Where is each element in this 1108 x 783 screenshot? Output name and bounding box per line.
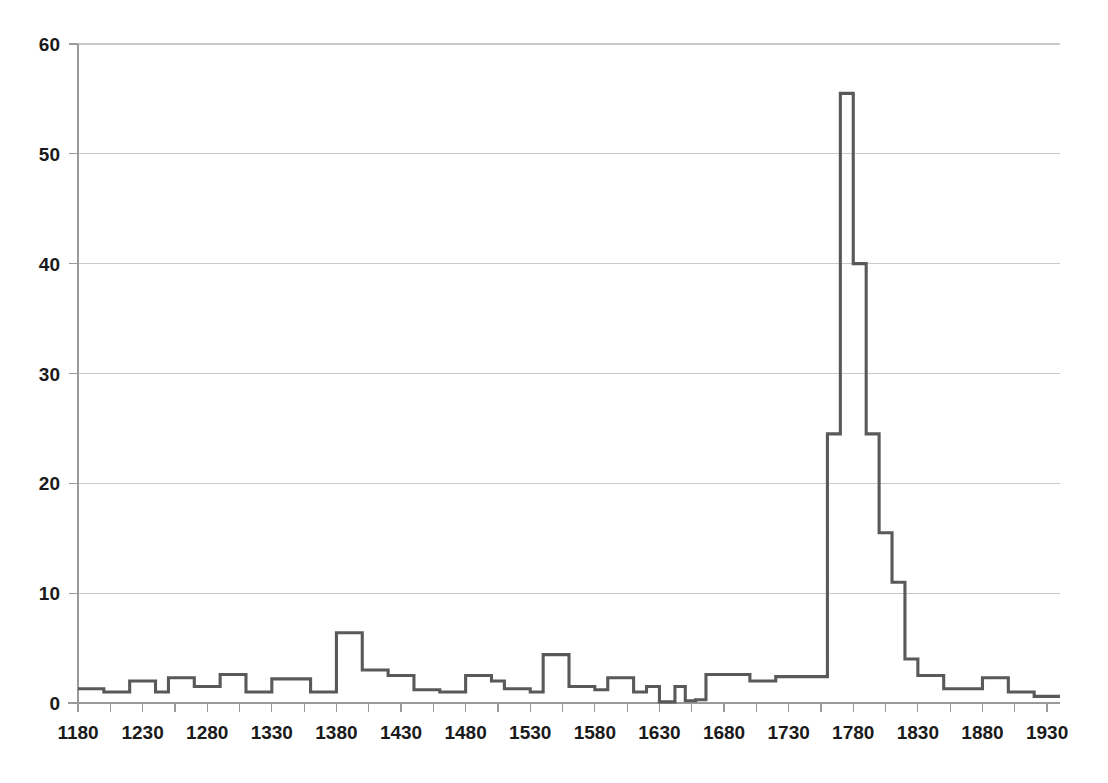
y-tick-label-20: 20 bbox=[39, 473, 60, 494]
x-tick-label-1580: 1580 bbox=[574, 722, 616, 743]
y-tick-label-30: 30 bbox=[39, 364, 60, 385]
x-tick-label-1530: 1530 bbox=[509, 722, 551, 743]
x-tick-label-1630: 1630 bbox=[638, 722, 680, 743]
step-line-chart: 0102030405060 11801230128013301380143014… bbox=[0, 0, 1108, 783]
data-series bbox=[78, 93, 1060, 701]
x-tick-label-1280: 1280 bbox=[186, 722, 228, 743]
x-tick-label-1780: 1780 bbox=[832, 722, 874, 743]
y-tick-label-40: 40 bbox=[39, 254, 60, 275]
y-tick-label-50: 50 bbox=[39, 144, 60, 165]
x-tick-label-1230: 1230 bbox=[121, 722, 163, 743]
x-tick-label-1880: 1880 bbox=[961, 722, 1003, 743]
x-tick-label-1480: 1480 bbox=[444, 722, 486, 743]
x-tick-label-1380: 1380 bbox=[315, 722, 357, 743]
x-axis-tick-labels: 1180123012801330138014301480153015801630… bbox=[57, 722, 1068, 743]
y-tick-label-10: 10 bbox=[39, 583, 60, 604]
series-line-0 bbox=[78, 93, 1060, 701]
gridlines bbox=[78, 44, 1060, 593]
x-tick-label-1430: 1430 bbox=[380, 722, 422, 743]
x-tick-label-1180: 1180 bbox=[57, 722, 98, 743]
x-tick-label-1930: 1930 bbox=[1026, 722, 1068, 743]
x-tick-label-1830: 1830 bbox=[897, 722, 939, 743]
y-tick-label-60: 60 bbox=[39, 34, 60, 55]
x-tick-label-1680: 1680 bbox=[703, 722, 745, 743]
chart-container: 0102030405060 11801230128013301380143014… bbox=[0, 0, 1108, 783]
y-tick-label-0: 0 bbox=[49, 693, 60, 714]
x-tick-label-1730: 1730 bbox=[768, 722, 810, 743]
x-tick-label-1330: 1330 bbox=[251, 722, 293, 743]
axis-ticks bbox=[69, 44, 1047, 712]
y-axis-tick-labels: 0102030405060 bbox=[39, 34, 60, 714]
